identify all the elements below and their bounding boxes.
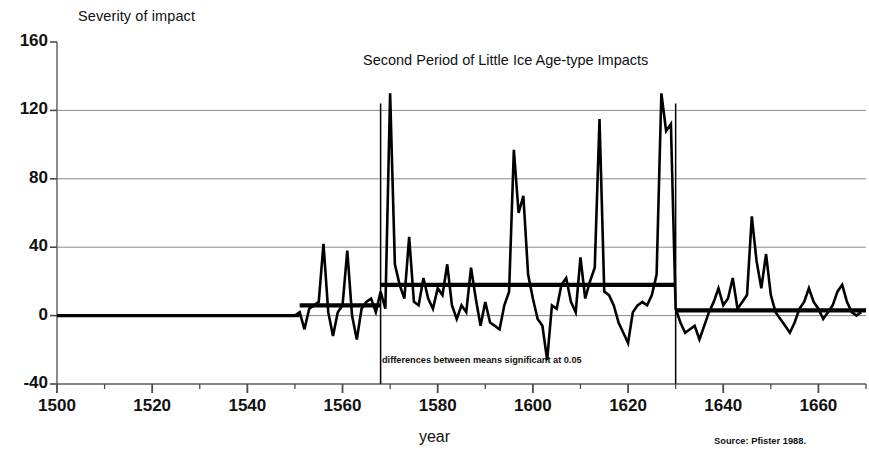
x-tick-label-1600: 1600 <box>493 396 573 416</box>
x-tick-label-1520: 1520 <box>112 396 192 416</box>
y-tick-label-0: 0 <box>0 306 48 323</box>
x-tick-label-1560: 1560 <box>303 396 383 416</box>
y-tick-label-40: 40 <box>0 237 48 254</box>
y-tick-label-120: 120 <box>0 100 48 117</box>
x-axis-title: year <box>0 428 869 446</box>
chart-figure: Severity of impact Second Period of Litt… <box>0 0 869 474</box>
x-tick-label-1500: 1500 <box>17 396 97 416</box>
significance-annotation: differences between means significant at… <box>382 355 582 365</box>
y-tick-label--40: -40 <box>0 374 48 391</box>
x-tick-label-1620: 1620 <box>588 396 668 416</box>
x-tick-label-1660: 1660 <box>778 396 858 416</box>
y-tick-label-80: 80 <box>0 169 48 186</box>
x-tick-label-1540: 1540 <box>207 396 287 416</box>
x-tick-label-1580: 1580 <box>398 396 478 416</box>
data-series-line <box>57 93 861 360</box>
x-tick-label-1640: 1640 <box>683 396 763 416</box>
y-tick-label-160: 160 <box>0 32 48 49</box>
